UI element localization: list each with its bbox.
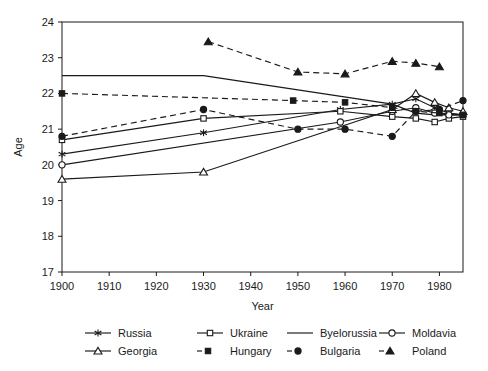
marker-open-triangle bbox=[412, 90, 420, 97]
y-tick-label-19: 19 bbox=[42, 195, 54, 207]
legend-label-hungary: Hungary bbox=[230, 345, 272, 357]
age-by-year-line-chart: 1718192021222324190019101920193019401950… bbox=[0, 0, 488, 371]
x-axis-title: Year bbox=[251, 300, 274, 312]
marker-filled-square bbox=[205, 348, 210, 353]
legend-item-poland[interactable]: Poland bbox=[379, 345, 446, 357]
y-tick-label-20: 20 bbox=[42, 159, 54, 171]
y-tick-label-21: 21 bbox=[42, 123, 54, 135]
x-tick-label-1950: 1950 bbox=[286, 280, 310, 292]
legend-label-bulgaria: Bulgaria bbox=[320, 345, 361, 357]
marker-filled-circle bbox=[200, 106, 206, 112]
marker-open-triangle bbox=[431, 99, 439, 106]
marker-open-circle bbox=[446, 112, 452, 118]
marker-open-square bbox=[201, 116, 206, 121]
x-tick-label-1900: 1900 bbox=[50, 280, 74, 292]
marker-filled-circle bbox=[59, 133, 65, 139]
series-line-poland bbox=[208, 42, 439, 74]
legend-item-bulgaria[interactable]: Bulgaria bbox=[287, 345, 361, 357]
marker-filled-circle bbox=[436, 106, 442, 112]
legend-item-georgia[interactable]: Georgia bbox=[85, 345, 158, 357]
marker-filled-circle bbox=[342, 126, 348, 132]
y-tick-label-23: 23 bbox=[42, 52, 54, 64]
x-tick-label-1980: 1980 bbox=[427, 280, 451, 292]
marker-filled-square bbox=[390, 105, 395, 110]
legend-item-russia[interactable]: Russia bbox=[85, 327, 153, 339]
marker-open-square bbox=[207, 330, 212, 335]
legend-label-ukraine: Ukraine bbox=[230, 327, 268, 339]
x-tick-label-1910: 1910 bbox=[97, 280, 121, 292]
legend-item-moldavia[interactable]: Moldavia bbox=[379, 327, 457, 339]
y-axis-title: Age bbox=[12, 137, 24, 157]
plot-frame bbox=[62, 22, 463, 272]
marker-filled-circle bbox=[295, 348, 301, 354]
marker-filled-circle bbox=[389, 133, 395, 139]
legend-label-poland: Poland bbox=[412, 345, 446, 357]
legend-item-byelorussia[interactable]: Byelorussia bbox=[287, 327, 378, 339]
marker-open-square bbox=[413, 116, 418, 121]
legend-label-byelorussia: Byelorussia bbox=[320, 327, 378, 339]
marker-filled-triangle bbox=[204, 38, 212, 45]
legend-item-hungary[interactable]: Hungary bbox=[197, 345, 272, 357]
marker-open-square bbox=[432, 119, 437, 124]
legend-item-ukraine[interactable]: Ukraine bbox=[197, 327, 268, 339]
marker-filled-circle bbox=[295, 126, 301, 132]
marker-filled-circle bbox=[460, 97, 466, 103]
x-tick-label-1960: 1960 bbox=[333, 280, 357, 292]
y-tick-label-22: 22 bbox=[42, 87, 54, 99]
legend: RussiaUkraineByelorussiaMoldaviaGeorgiaH… bbox=[85, 327, 457, 357]
marker-filled-square bbox=[460, 112, 465, 117]
marker-open-circle bbox=[389, 330, 395, 336]
marker-filled-circle bbox=[413, 108, 419, 114]
series-ukraine bbox=[59, 109, 465, 143]
marker-filled-square bbox=[342, 100, 347, 105]
series-line-russia bbox=[62, 99, 463, 154]
series-line-hungary bbox=[62, 93, 463, 114]
marker-filled-triangle bbox=[294, 68, 302, 75]
x-tick-label-1940: 1940 bbox=[238, 280, 262, 292]
series-line-georgia bbox=[62, 93, 463, 179]
y-tick-label-18: 18 bbox=[42, 230, 54, 242]
series-georgia bbox=[58, 90, 467, 182]
series-hungary bbox=[59, 91, 465, 118]
series-line-moldavia bbox=[62, 108, 463, 165]
y-tick-label-17: 17 bbox=[42, 266, 54, 278]
marker-filled-triangle bbox=[386, 347, 394, 354]
x-tick-label-1920: 1920 bbox=[144, 280, 168, 292]
legend-label-georgia: Georgia bbox=[118, 345, 158, 357]
series-moldavia bbox=[59, 105, 466, 168]
marker-open-square bbox=[338, 109, 343, 114]
legend-label-moldavia: Moldavia bbox=[412, 327, 457, 339]
marker-open-circle bbox=[337, 119, 343, 125]
legend-label-russia: Russia bbox=[118, 327, 153, 339]
marker-filled-square bbox=[290, 98, 295, 103]
marker-open-circle bbox=[59, 162, 65, 168]
series-russia bbox=[59, 95, 467, 157]
y-tick-label-24: 24 bbox=[42, 16, 54, 28]
series-bulgaria bbox=[59, 97, 466, 139]
x-tick-label-1970: 1970 bbox=[380, 280, 404, 292]
chart-figure: 1718192021222324190019101920193019401950… bbox=[0, 0, 488, 371]
x-tick-label-1930: 1930 bbox=[191, 280, 215, 292]
marker-filled-square bbox=[59, 91, 64, 96]
series-poland bbox=[204, 38, 443, 77]
